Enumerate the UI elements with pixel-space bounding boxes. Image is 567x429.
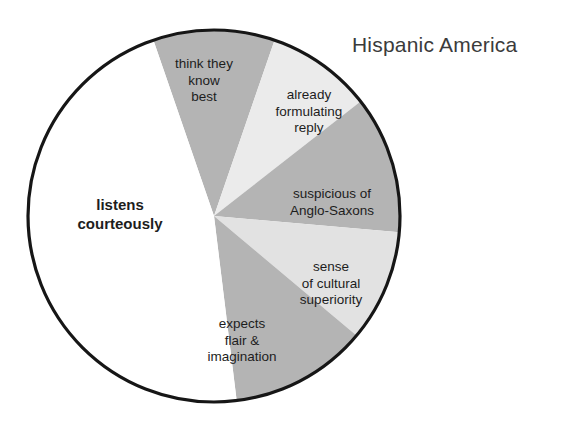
pie-chart [0, 0, 567, 429]
chart-title: Hispanic America [352, 33, 517, 57]
pie-slice-group [28, 30, 400, 402]
chart-canvas: Hispanic America think they know best al… [0, 0, 567, 429]
